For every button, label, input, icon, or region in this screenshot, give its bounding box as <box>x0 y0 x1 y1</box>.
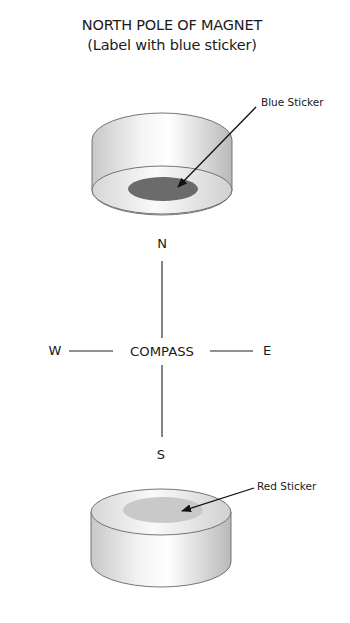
bottom-magnet <box>91 489 231 587</box>
compass-center-label: COMPASS <box>130 344 194 359</box>
compass-north-label: N <box>157 236 167 251</box>
red-sticker <box>123 497 203 523</box>
compass: N W COMPASS E S <box>49 236 272 462</box>
diagram-canvas: Blue Sticker N W COMPASS E S Red Sticker <box>0 0 350 623</box>
blue-sticker <box>128 177 198 201</box>
blue-sticker-label: Blue Sticker <box>261 96 324 108</box>
compass-west-label: W <box>49 343 62 358</box>
compass-east-label: E <box>263 343 271 358</box>
red-sticker-label: Red Sticker <box>257 480 317 492</box>
compass-south-label: S <box>157 447 165 462</box>
top-magnet <box>92 113 232 215</box>
